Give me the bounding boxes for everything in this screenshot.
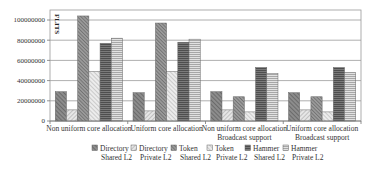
legend-item: HammerShared L2: [245, 144, 285, 162]
bar: [289, 93, 300, 121]
bar: [55, 92, 66, 121]
legend-label: Shared L2: [254, 153, 285, 162]
bars: [55, 16, 355, 121]
bar: [111, 38, 122, 121]
x-category-label: Non uniform core allocation: [46, 124, 131, 133]
legend-label: Token: [179, 144, 198, 153]
bar: [311, 97, 322, 121]
bar: [244, 112, 255, 121]
bar: [155, 23, 166, 121]
bar: [189, 39, 200, 121]
x-category-label: Uniform core allocation: [286, 124, 358, 133]
legend-swatch: [131, 145, 137, 151]
legend-item: TokenShared L2: [171, 144, 211, 162]
legend: DirectoryShared L2DirectoryPrivate L2Tok…: [92, 144, 324, 162]
x-axis: Non uniform core allocationUniform core …: [46, 121, 361, 142]
y-tick-label: 60000000: [17, 57, 46, 65]
legend-item: DirectoryShared L2: [92, 144, 132, 162]
y-axis: 0200000004000000060000000800000001000000…: [14, 16, 51, 125]
bar: [178, 42, 189, 121]
legend-label: Token: [215, 144, 234, 153]
legend-label: Shared L2: [101, 153, 132, 162]
bar: [345, 73, 356, 121]
bar: [322, 112, 333, 121]
legend-label: Private L2: [140, 153, 172, 162]
legend-swatch: [171, 145, 177, 151]
x-category-label: Uniform core allocation: [131, 124, 203, 133]
y-tick-label: 80000000: [17, 37, 46, 45]
bar: [222, 110, 233, 121]
legend-item: HammerPrivate L2: [283, 144, 324, 162]
bar: [89, 72, 100, 121]
legend-item: TokenPrivate L2: [207, 144, 248, 162]
legend-label: Private L2: [292, 153, 324, 162]
y-tick-label: 40000000: [17, 77, 46, 85]
bar: [167, 72, 178, 121]
bar: [300, 110, 311, 121]
bar: [100, 43, 111, 121]
y-tick-label: 0: [42, 117, 46, 125]
legend-swatch: [92, 145, 98, 151]
legend-item: DirectoryPrivate L2: [131, 144, 172, 162]
legend-label: Directory: [139, 144, 168, 153]
legend-swatch: [207, 145, 213, 151]
bar: [66, 110, 77, 121]
bar: [333, 67, 344, 121]
bar: [78, 16, 89, 121]
legend-label: Hammer: [253, 144, 280, 153]
bar: [211, 92, 222, 121]
bar: [256, 67, 267, 121]
y-axis-label: FLITS: [53, 14, 61, 34]
bar: [267, 74, 278, 121]
legend-label: Hammer: [291, 144, 318, 153]
bar: [233, 97, 244, 121]
legend-swatch: [245, 145, 251, 151]
bar: [144, 111, 155, 121]
x-category-label: Broadcast support: [217, 133, 272, 142]
bar: [133, 93, 144, 121]
legend-label: Private L2: [216, 153, 248, 162]
x-category-label: Broadcast support: [295, 133, 350, 142]
legend-swatch: [283, 145, 289, 151]
y-tick-label: 100000000: [14, 16, 46, 24]
legend-label: Shared L2: [180, 153, 211, 162]
legend-label: Directory: [100, 144, 129, 153]
bar-chart: 0200000004000000060000000800000001000000…: [0, 0, 376, 171]
y-tick-label: 20000000: [17, 97, 46, 105]
x-category-label: Non uniform core allocation: [202, 124, 287, 133]
